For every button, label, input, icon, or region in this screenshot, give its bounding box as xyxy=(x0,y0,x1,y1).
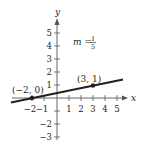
y-axis-label: y xyxy=(54,7,61,17)
x-tick-labels: −2 −1 1 2 3 4 5 xyxy=(24,104,120,114)
svg-text:4: 4 xyxy=(102,104,107,114)
svg-text:3: 3 xyxy=(47,54,52,64)
point-label-3-1: (3, 1) xyxy=(77,74,101,84)
x-axis-label: x xyxy=(131,93,136,103)
svg-text:5: 5 xyxy=(47,28,52,38)
svg-text:3: 3 xyxy=(90,104,95,114)
svg-text:−2: −2 xyxy=(24,104,37,114)
y-axis-arrow-icon xyxy=(55,18,60,25)
svg-text:−2: −2 xyxy=(39,119,52,129)
slope-annotation: m = 1 5 xyxy=(73,35,96,52)
svg-text:−1: −1 xyxy=(36,104,49,114)
svg-text:1: 1 xyxy=(91,35,95,43)
svg-text:−3: −3 xyxy=(39,132,52,142)
svg-text:2: 2 xyxy=(47,67,52,77)
x-axis-arrow-icon xyxy=(122,96,128,101)
point-neg2-0 xyxy=(30,96,34,100)
svg-text:5: 5 xyxy=(91,43,95,51)
svg-text:1: 1 xyxy=(66,104,71,114)
svg-text:2: 2 xyxy=(78,104,83,114)
svg-text:5: 5 xyxy=(114,104,119,114)
svg-text:m =: m = xyxy=(73,37,92,47)
svg-text:1: 1 xyxy=(47,80,52,90)
line-plot: x y −2 −1 1 2 3 4 5 5 4 3 2 1 −2 −3 xyxy=(0,0,166,153)
point-label-neg2-0: (−2, 0) xyxy=(12,85,44,95)
svg-text:4: 4 xyxy=(47,41,52,51)
